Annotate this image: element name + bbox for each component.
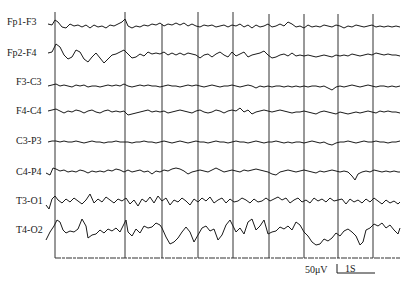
trace-f4-c4 [48, 108, 400, 115]
channel-label-t3-o1: T3-O1 [16, 195, 43, 207]
trace-t3-o1 [46, 194, 400, 209]
trace-t4-o2 [46, 219, 400, 245]
trace-f3-c3 [48, 84, 400, 90]
channel-label-t4-o2: T4-O2 [16, 224, 43, 236]
trace-fp2-f4 [48, 44, 400, 63]
time-scale-label: 1S [345, 263, 356, 275]
channel-label-fp2-f4: Fp2-F4 [7, 47, 36, 59]
trace-c3-p3 [48, 141, 400, 145]
channel-label-fp1-f3: Fp1-F3 [7, 16, 36, 28]
traces [46, 19, 400, 245]
scale-bar [337, 264, 375, 273]
trace-fp1-f3 [48, 19, 400, 28]
channel-label-f4-c4: F4-C4 [16, 105, 42, 117]
amplitude-scale-label: 50μV [305, 264, 328, 276]
trace-c4-p4 [46, 168, 400, 180]
channel-label-c4-p4: C4-P4 [16, 166, 42, 178]
eeg-trace-plot [0, 0, 413, 289]
channel-label-c3-p3: C3-P3 [16, 135, 42, 147]
channel-label-f3-c3: F3-C3 [16, 76, 42, 88]
time-markers [55, 12, 373, 258]
